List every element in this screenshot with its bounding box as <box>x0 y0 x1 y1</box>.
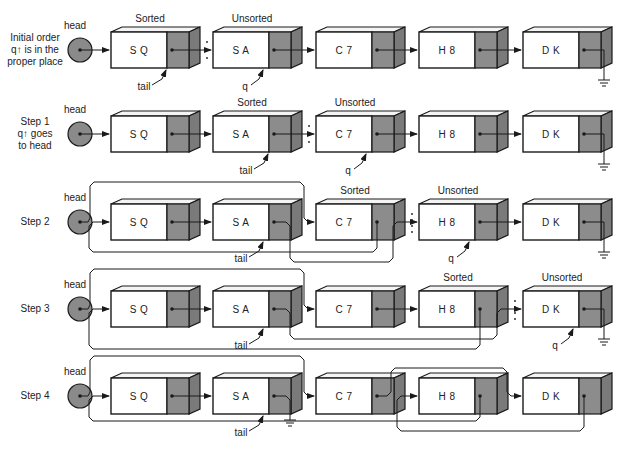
head-label: head <box>64 192 86 203</box>
tail-label: tail <box>235 253 248 264</box>
node-key-label: C 7 <box>335 391 352 402</box>
divider-dot <box>514 318 516 320</box>
diagram-canvas: Initial orderq↑ is in theproper placehea… <box>0 0 622 452</box>
node-top-face <box>523 286 612 291</box>
node-top-face <box>419 286 508 291</box>
node-side-face <box>189 27 200 68</box>
node-side-face <box>497 199 508 240</box>
head-label: head <box>64 104 86 115</box>
list-node: S Q <box>111 111 200 152</box>
step-row-step4: Step 4headS QS AC 7H 8D Ktail <box>21 356 612 438</box>
node-key-label: H 8 <box>438 217 455 228</box>
list-node: C 7 <box>316 199 405 240</box>
list-node: C 7 <box>316 373 405 414</box>
node-key-label: S Q <box>130 391 149 402</box>
list-node: H 8 <box>419 199 508 240</box>
node-key-label: S A <box>232 391 249 402</box>
node-top-face <box>213 27 302 32</box>
node-side-face <box>189 111 200 152</box>
list-node: S A <box>213 27 302 68</box>
head-label: head <box>64 366 86 377</box>
node-key-label: D K <box>542 391 560 402</box>
node-key-label: S Q <box>130 217 149 228</box>
node-top-face <box>419 27 508 32</box>
q-arrow <box>354 154 366 169</box>
divider-dot <box>206 57 208 59</box>
list-node: S A <box>213 199 302 240</box>
list-node: H 8 <box>419 286 508 327</box>
tail-arrow <box>152 70 166 85</box>
unsorted-label: Unsorted <box>335 97 376 108</box>
node-side-face <box>601 199 612 240</box>
node-side-face <box>394 286 405 327</box>
node-key-label: H 8 <box>438 391 455 402</box>
null-ground-icon <box>598 70 610 86</box>
node-side-face <box>497 286 508 327</box>
divider-dot <box>308 125 310 127</box>
node-side-face <box>189 373 200 414</box>
tail-arrow <box>249 416 263 431</box>
node-top-face <box>213 111 302 116</box>
divider-dot <box>308 141 310 143</box>
node-top-face <box>111 111 200 116</box>
node-side-face <box>497 111 508 152</box>
node-side-face <box>601 27 612 68</box>
q-label: q <box>242 81 248 92</box>
unsorted-label: Unsorted <box>232 13 273 24</box>
list-node: D K <box>523 286 612 327</box>
node-side-face <box>394 199 405 240</box>
sorted-label: Sorted <box>443 272 472 283</box>
list-node: C 7 <box>316 111 405 152</box>
step-caption: Initial order <box>10 32 60 43</box>
node-top-face <box>111 286 200 291</box>
q-label: q <box>345 165 351 176</box>
node-side-face <box>189 199 200 240</box>
list-node: S Q <box>111 286 200 327</box>
tail-label: tail <box>235 427 248 438</box>
node-side-face <box>291 199 302 240</box>
node-key-label: D K <box>542 304 560 315</box>
node-key-label: D K <box>542 129 560 140</box>
node-key-label: S Q <box>130 304 149 315</box>
divider-dot <box>411 231 413 233</box>
list-node: D K <box>523 111 612 152</box>
q-arrow <box>251 70 263 85</box>
node-key-label: S A <box>232 304 249 315</box>
node-top-face <box>523 199 612 204</box>
node-key-label: C 7 <box>335 45 352 56</box>
step-caption: Step 3 <box>21 303 50 314</box>
unsorted-label: Unsorted <box>438 185 479 196</box>
node-top-face <box>419 199 508 204</box>
tail-label: tail <box>240 165 253 176</box>
linked-list-insertion-sort-diagram: Initial orderq↑ is in theproper placehea… <box>0 0 622 452</box>
node-top-face <box>523 27 612 32</box>
node-side-face <box>189 286 200 327</box>
node-top-face <box>523 111 612 116</box>
sorted-label: Sorted <box>237 97 266 108</box>
node-side-face <box>291 27 302 68</box>
divider-dot <box>411 219 413 221</box>
divider-dot <box>411 213 413 215</box>
tail-arrow <box>249 242 263 257</box>
q-label: q <box>448 253 454 264</box>
node-key-label: S Q <box>130 129 149 140</box>
list-node: S Q <box>111 27 200 68</box>
tail-arrow <box>254 154 268 169</box>
q-arrow <box>561 329 573 344</box>
node-key-label: H 8 <box>438 304 455 315</box>
node-key-label: C 7 <box>335 217 352 228</box>
node-top-face <box>316 373 405 378</box>
node-side-face <box>394 27 405 68</box>
null-ground-icon <box>598 154 610 170</box>
node-key-label: C 7 <box>335 304 352 315</box>
divider-dot <box>514 312 516 314</box>
node-top-face <box>213 199 302 204</box>
node-top-face <box>213 286 302 291</box>
node-key-label: H 8 <box>438 129 455 140</box>
node-top-face <box>111 199 200 204</box>
null-ground-icon <box>598 329 610 345</box>
node-top-face <box>316 27 405 32</box>
node-side-face <box>497 373 508 414</box>
step-caption: q↑ goes <box>17 128 52 139</box>
node-top-face <box>316 199 405 204</box>
